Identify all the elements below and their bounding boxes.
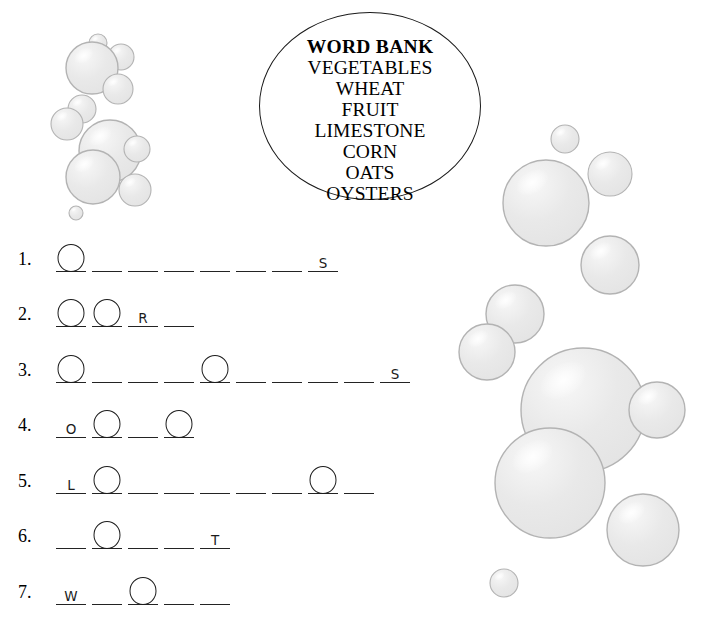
word-bank-title: WORD BANK [260,36,480,57]
answer-blank[interactable] [128,464,158,494]
answer-blank[interactable] [164,408,194,438]
puzzle-blank-group: R [56,297,194,327]
puzzle-blank-group: O [56,408,194,438]
puzzle-blank-group: L [56,464,374,494]
bubble-cluster-left [51,34,151,220]
bubble [51,108,83,140]
answer-blank[interactable] [92,242,122,272]
bubble [486,285,544,343]
word-bank-word: WHEAT [260,78,480,99]
bubble-highlight [111,45,123,56]
puzzle-row-number: 5. [18,472,32,490]
answer-blank[interactable] [128,575,158,605]
answer-blank[interactable] [272,242,302,272]
answer-blank[interactable] [308,353,338,383]
given-letter: L [56,478,86,492]
bubble [108,44,134,70]
circle-blank-icon [166,410,193,438]
bubble [551,125,579,153]
answer-blank[interactable] [164,353,194,383]
answer-blank[interactable]: S [308,242,338,272]
word-bank-ellipse: WORD BANK VEGETABLES WHEAT FRUIT LIMESTO… [259,12,481,200]
bubble [588,152,632,196]
answer-blank[interactable] [128,353,158,383]
puzzle-row-number: 6. [18,527,32,545]
answer-blank[interactable] [344,353,374,383]
puzzle-blank-group: T [56,519,230,549]
circle-blank-icon [58,244,85,272]
bubble-highlight [71,96,84,108]
answer-blank[interactable] [200,353,230,383]
bubble [607,494,679,566]
answer-blank[interactable] [56,519,86,549]
word-bank-word: OATS [260,162,480,183]
given-letter: S [380,367,410,381]
bubble-highlight [91,35,100,43]
answer-blank[interactable] [56,242,86,272]
puzzle-row-number: 2. [18,305,32,323]
bubble-highlight [54,109,69,123]
puzzle-row: 3.S [18,327,438,383]
answer-blank[interactable]: T [200,519,230,549]
bubble-highlight [85,123,115,150]
answer-blank[interactable] [200,242,230,272]
answer-blank[interactable] [92,297,122,327]
answer-blank[interactable] [272,464,302,494]
answer-blank[interactable]: L [56,464,86,494]
puzzle-row: 2.R [18,272,438,328]
answer-blank[interactable] [92,353,122,383]
word-bank-word: FRUIT [260,99,480,120]
bubble-highlight [465,326,492,350]
answer-blank[interactable] [164,575,194,605]
answer-blank[interactable] [92,519,122,549]
answer-blank[interactable] [164,519,194,549]
answer-blank[interactable]: R [128,297,158,327]
word-bank-word: VEGETABLES [260,57,480,78]
answer-blank[interactable] [200,464,230,494]
answer-blank[interactable]: S [380,353,410,383]
bubble-cluster-right [459,125,685,597]
answer-blank[interactable]: O [56,408,86,438]
answer-blank[interactable] [92,575,122,605]
bubble-highlight [614,497,648,528]
given-letter: W [56,589,86,603]
answer-blank[interactable] [200,575,230,605]
answer-blank[interactable] [344,464,374,494]
given-letter: R [128,311,158,325]
answer-blank[interactable] [236,464,266,494]
word-bank-word: CORN [260,141,480,162]
answer-blank[interactable] [236,242,266,272]
circle-blank-icon [94,521,121,549]
answer-blank[interactable] [56,353,86,383]
bubble [629,382,685,438]
answer-blank[interactable] [128,242,158,272]
puzzle-row: 1.S [18,216,438,272]
word-bank-word: LIMESTONE [260,120,480,141]
bubble-highlight [71,152,97,175]
given-letter: O [56,422,86,436]
puzzle-row: 4.O [18,383,438,439]
answer-blank[interactable] [164,297,194,327]
answer-blank[interactable] [236,353,266,383]
answer-blank[interactable] [308,464,338,494]
bubble-highlight [592,154,613,173]
bubble [66,150,120,204]
answer-blank[interactable] [128,408,158,438]
answer-blank[interactable] [164,464,194,494]
answer-blank[interactable] [272,353,302,383]
given-letter: T [200,533,230,547]
answer-blank[interactable] [92,408,122,438]
circle-blank-icon [310,466,337,494]
bubble-highlight [554,126,567,138]
bubble-highlight [635,384,662,408]
answer-blank[interactable] [128,519,158,549]
bubble [124,136,150,162]
answer-blank[interactable] [56,297,86,327]
bubble-highlight [534,353,593,407]
answer-blank[interactable]: W [56,575,86,605]
puzzle-row-number: 3. [18,361,32,379]
answer-blank[interactable] [164,242,194,272]
bubble [459,324,515,380]
circle-blank-icon [130,577,157,605]
answer-blank[interactable] [92,464,122,494]
